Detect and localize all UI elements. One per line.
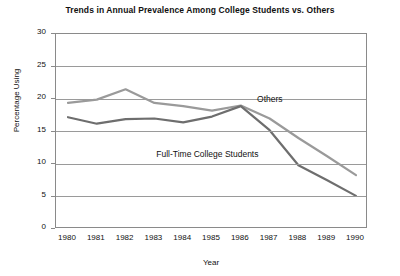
gridline bbox=[56, 196, 366, 197]
chart-figure: Trends in Annual Prevalence Among Colleg… bbox=[0, 0, 400, 276]
series-annotation: Others bbox=[257, 94, 283, 104]
series-annotation: Full-Time College Students bbox=[156, 149, 258, 159]
y-tick-label: 25 bbox=[8, 61, 46, 69]
y-tick-label: 15 bbox=[8, 126, 46, 134]
x-tick-label: 1990 bbox=[335, 233, 375, 242]
gridline bbox=[56, 131, 366, 132]
y-tick-label: 10 bbox=[8, 158, 46, 166]
plot-area bbox=[55, 33, 367, 228]
y-tick-label: 0 bbox=[8, 223, 46, 231]
y-tick-label: 5 bbox=[8, 191, 46, 199]
gridline bbox=[56, 164, 366, 165]
gridline bbox=[56, 99, 366, 100]
y-tick-label: 30 bbox=[8, 28, 46, 36]
x-axis-label: Year bbox=[55, 258, 367, 267]
series-line bbox=[68, 89, 356, 175]
gridline bbox=[56, 66, 366, 67]
y-tick-mark bbox=[51, 228, 55, 229]
y-tick-label: 20 bbox=[8, 93, 46, 101]
